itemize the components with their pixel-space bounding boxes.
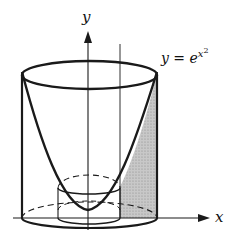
outer-bottom-ellipse-front <box>22 218 157 228</box>
outer-top-ellipse <box>22 61 157 89</box>
x-axis-arrow-icon <box>198 214 210 222</box>
y-axis-arrow-icon <box>84 31 92 43</box>
inner-top-ellipse-back <box>58 175 120 188</box>
solid-of-revolution-diagram: y x y = ex2 <box>0 0 232 230</box>
x-axis-label: x <box>215 208 224 226</box>
inner-bottom-ellipse-front <box>58 218 120 224</box>
shaded-region <box>120 74 157 218</box>
curve-label: y = ex2 <box>160 46 209 66</box>
y-axis-label: y <box>81 8 91 26</box>
curve-label-exp-power: 2 <box>203 46 208 55</box>
curve-label-lhs: y = e <box>160 50 198 66</box>
